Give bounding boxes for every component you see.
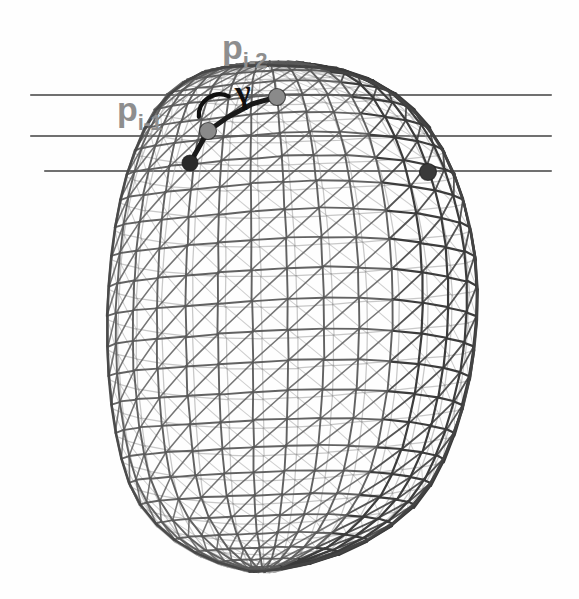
mesh-edge <box>193 275 226 307</box>
mesh-edge <box>356 237 390 239</box>
mesh-edge <box>262 338 298 368</box>
mesh-edge <box>201 498 209 518</box>
mesh-edge <box>421 333 446 337</box>
mesh-edge <box>263 369 299 398</box>
mesh-edge <box>224 472 254 473</box>
mesh-edge <box>186 306 187 336</box>
mesh-edge <box>185 273 218 307</box>
mesh-edge <box>186 246 187 275</box>
mesh-edge <box>292 70 310 71</box>
mesh-edge <box>287 267 323 268</box>
mesh-edge <box>358 300 392 329</box>
mesh-edge <box>236 524 264 525</box>
mesh-edge <box>253 299 288 301</box>
mesh-edge <box>253 390 288 392</box>
mesh-edge <box>218 270 252 272</box>
mesh-edge <box>220 392 254 395</box>
mesh-edge <box>263 427 298 428</box>
mesh-edge <box>422 385 445 387</box>
mesh-edge <box>296 276 333 304</box>
mesh-edge <box>190 394 220 424</box>
mesh-edge <box>221 422 223 448</box>
mesh-edge <box>158 248 159 278</box>
mesh-edge <box>283 182 284 210</box>
mesh-edge <box>221 138 223 162</box>
mesh-edge <box>289 165 291 190</box>
mesh-edge <box>260 247 296 276</box>
mesh-edge <box>287 390 288 419</box>
mesh-edge <box>120 400 136 402</box>
point-dark-right <box>420 164 437 181</box>
mesh-edge <box>189 187 220 218</box>
mesh-edge <box>453 195 460 223</box>
mesh-edge <box>401 450 422 452</box>
mesh-edge <box>138 239 141 269</box>
mesh-edge <box>188 214 219 246</box>
mesh-edge <box>355 187 359 214</box>
mesh-edge <box>295 246 331 274</box>
mesh-edge <box>282 156 284 182</box>
mesh-edge <box>163 137 176 163</box>
mesh-edge <box>136 268 138 298</box>
mesh-edge <box>435 190 442 217</box>
mesh-edge <box>319 445 349 446</box>
mesh-edge <box>218 332 252 364</box>
mesh-edge <box>172 117 189 120</box>
mesh-edge <box>357 359 390 361</box>
mesh-edge <box>450 263 466 265</box>
mesh-edge <box>390 239 392 270</box>
mesh-edge <box>367 363 396 390</box>
mesh-edge <box>365 272 399 301</box>
mesh-edge <box>253 360 288 362</box>
mesh-edge <box>288 267 322 299</box>
mesh-edge <box>187 367 188 397</box>
mesh-edge <box>178 498 201 499</box>
mesh-edge <box>347 101 365 102</box>
mesh-edge <box>323 267 324 298</box>
mesh-edge <box>157 278 158 308</box>
mesh-edge <box>286 419 287 447</box>
mesh-edge <box>192 305 193 335</box>
mesh-edge <box>426 356 449 358</box>
mesh-edge <box>449 325 451 355</box>
mesh-edge <box>310 493 337 494</box>
mesh-edge <box>252 330 288 332</box>
mesh-edge <box>369 134 375 158</box>
mesh-edge <box>321 389 356 418</box>
mesh-edge <box>219 535 229 550</box>
mesh-edge <box>251 113 278 135</box>
mesh-edge <box>445 356 449 386</box>
mesh-edge <box>187 364 218 396</box>
mesh-edge <box>253 332 254 363</box>
mesh-edge <box>346 155 376 157</box>
mesh-edge <box>392 331 422 334</box>
mesh-edge <box>332 533 345 534</box>
mesh-edge <box>287 268 288 299</box>
mesh-edge <box>137 359 138 388</box>
mesh-edge <box>221 158 251 160</box>
mesh-edge <box>389 214 416 239</box>
mesh-edge <box>263 456 264 481</box>
mesh-edge <box>255 515 280 517</box>
mesh-edge <box>120 371 134 402</box>
mesh-edge <box>219 364 220 394</box>
mesh-edge <box>409 422 431 426</box>
mesh-edge <box>220 158 250 187</box>
mesh-edge <box>250 158 251 184</box>
mesh-edge <box>293 217 329 244</box>
mesh-edge <box>145 426 162 454</box>
mesh-edge <box>228 399 263 428</box>
mesh-edge <box>259 548 261 559</box>
mesh-edge <box>339 132 368 134</box>
mesh-edge <box>217 301 252 304</box>
mesh-edge <box>337 493 360 494</box>
mesh-edge <box>116 343 117 374</box>
mesh-edge <box>353 208 357 238</box>
mesh-edge <box>334 112 361 113</box>
mesh-edge <box>321 237 322 267</box>
mesh-edge <box>221 447 253 448</box>
mesh-edge <box>217 240 251 273</box>
mesh-edge <box>251 182 283 184</box>
mesh-edge <box>195 397 228 400</box>
mesh-edge <box>398 358 426 360</box>
